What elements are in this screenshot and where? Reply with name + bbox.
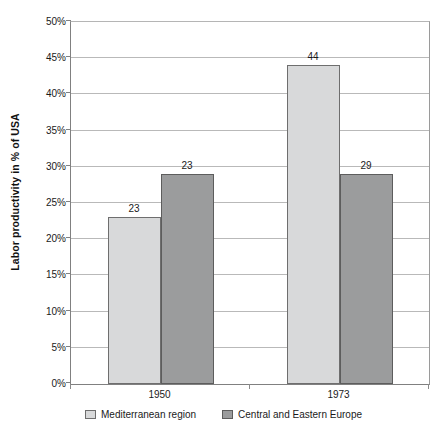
x-axis-category-label: 1973 <box>327 389 349 400</box>
x-axis-category-label: 1950 <box>148 389 170 400</box>
y-axis-title-label: Labor productivity in % of USA <box>9 113 21 271</box>
y-axis-tick-label: 50% <box>26 16 66 27</box>
bar-1950-series-1[interactable]: 23 <box>161 174 214 384</box>
legend-item-label: Mediterranean region <box>101 409 196 420</box>
y-axis-tick-label: 0% <box>26 378 66 389</box>
legend-item-label: Central and Eastern Europe <box>238 409 362 420</box>
bar-value-label: 23 <box>109 203 160 218</box>
legend-swatch-icon <box>222 410 233 419</box>
bar-1950-series-0[interactable]: 23 <box>108 217 161 384</box>
gridline <box>71 57 429 58</box>
chart-legend: Mediterranean regionCentral and Eastern … <box>0 405 447 423</box>
gridline <box>71 93 429 94</box>
x-axis: 19501973 <box>70 384 430 404</box>
plot-area: 23234429 <box>70 21 430 385</box>
x-axis-tick-mark <box>428 384 429 389</box>
bar-1973-series-0[interactable]: 44 <box>287 65 340 384</box>
x-axis-tick-mark <box>70 384 71 389</box>
y-axis-tick-label: 10% <box>26 305 66 316</box>
gridline <box>71 21 429 22</box>
bar-value-label: 23 <box>162 160 213 175</box>
bar-chart: Labor productivity in % of USA 0%5%10%15… <box>0 0 447 429</box>
y-axis-tick-label: 25% <box>26 197 66 208</box>
x-axis-tick-mark <box>249 384 250 389</box>
y-axis-tick-label: 15% <box>26 269 66 280</box>
y-axis-tick-label: 30% <box>26 160 66 171</box>
bar-value-label: 29 <box>341 160 392 175</box>
legend-item-1[interactable]: Central and Eastern Europe <box>222 409 362 420</box>
legend-item-0[interactable]: Mediterranean region <box>85 409 196 420</box>
bar-value-label: 44 <box>288 51 339 66</box>
y-axis-tick-label: 40% <box>26 88 66 99</box>
y-axis-tick-labels: 0%5%10%15%20%25%30%35%40%45%50% <box>22 21 66 383</box>
y-axis-tick-label: 20% <box>26 233 66 244</box>
y-axis-tick-label: 45% <box>26 52 66 63</box>
gridline <box>71 130 429 131</box>
y-axis-tick-label: 35% <box>26 124 66 135</box>
bar-1973-series-1[interactable]: 29 <box>340 174 393 384</box>
legend-swatch-icon <box>85 410 96 419</box>
y-axis-tick-label: 5% <box>26 341 66 352</box>
